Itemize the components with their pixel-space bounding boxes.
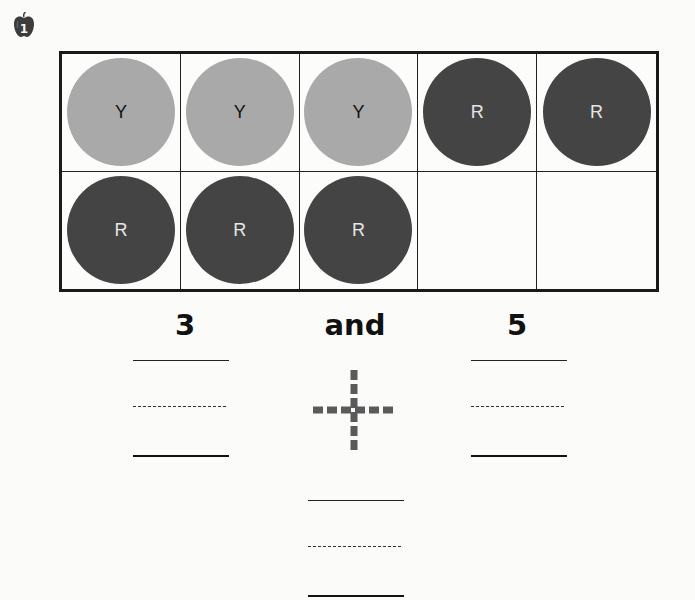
writing-top-line [308,500,404,501]
ten-frame-cell: R [181,172,300,290]
writing-baseline [471,455,567,457]
writing-baseline [308,595,404,597]
writing-midline-dashed [133,406,226,407]
ten-frame: Y Y Y R R R R R [59,51,659,292]
counter-letter: Y [352,102,364,123]
right-number-label: 5 [492,308,542,342]
red-counter: R [67,176,175,284]
ten-frame-cell: Y [300,54,419,172]
red-counter: R [304,176,412,284]
and-label: and [305,308,405,342]
counter-letter: R [233,220,246,241]
problem-number-badge: 1 [12,12,36,38]
ten-frame-cell-empty [418,172,537,290]
problem-number: 1 [12,22,36,36]
left-answer-writing-lines[interactable] [133,360,229,460]
red-counter: R [543,58,651,166]
writing-top-line [133,360,229,361]
ten-frame-cell: R [300,172,419,290]
red-counter: R [423,58,531,166]
counter-letter: R [590,102,603,123]
ten-frame-cell: R [418,54,537,172]
ten-frame-cell: R [62,172,181,290]
ten-frame-cell: Y [62,54,181,172]
counter-letter: Y [234,102,246,123]
writing-baseline [133,455,229,457]
left-number-label: 3 [160,308,210,342]
writing-midline-dashed [308,546,401,547]
counter-letter: Y [115,102,127,123]
counter-letter: R [471,102,484,123]
ten-frame-cell: R [537,54,656,172]
ten-frame-cell: Y [181,54,300,172]
right-answer-writing-lines[interactable] [471,360,567,460]
writing-midline-dashed [471,406,564,407]
counter-letter: R [352,220,365,241]
red-counter: R [186,176,294,284]
yellow-counter: Y [186,58,294,166]
writing-top-line [471,360,567,361]
yellow-counter: Y [67,58,175,166]
counter-letter: R [114,220,127,241]
plus-icon [313,370,395,450]
yellow-counter: Y [304,58,412,166]
ten-frame-cell-empty [537,172,656,290]
total-answer-writing-lines[interactable] [308,500,404,600]
